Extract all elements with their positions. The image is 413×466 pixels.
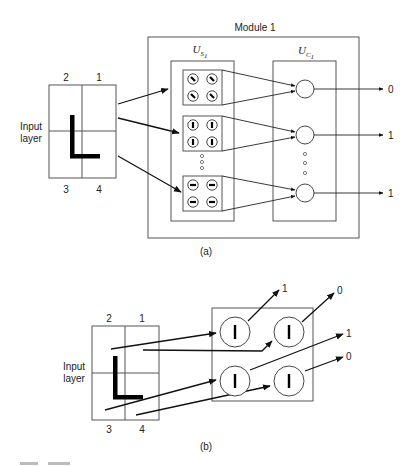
uc-unit-3 — [296, 184, 314, 202]
input-layer-label-line2: layer — [20, 133, 42, 144]
feature-output-top-right: 0 — [337, 285, 343, 296]
horizontal-feature-cell — [188, 180, 198, 190]
us-group-horizontal — [183, 176, 222, 211]
uc-unit-2 — [296, 126, 314, 144]
us-group-vertical — [183, 116, 222, 151]
diagonal-feature-cell — [188, 74, 198, 84]
us-group-diagonal — [183, 70, 222, 105]
neocognitron-figure: Module 1 Input layer 2 1 3 4 — [0, 0, 413, 466]
us-to-uc-connections — [222, 70, 295, 211]
quadrant-label-2: 2 — [63, 72, 69, 83]
uc-layer-label: UC1 — [298, 44, 314, 61]
diagonal-feature-cell — [207, 74, 217, 84]
uc-layer: UC1 — [222, 44, 336, 221]
horizontal-feature-cell — [207, 197, 217, 207]
output-value-2: 1 — [388, 130, 394, 141]
diagonal-feature-cell — [188, 91, 198, 101]
quadrant-label-3: 3 — [63, 184, 69, 195]
caption-a: (a) — [200, 246, 212, 257]
feature-output-bottom-right: 0 — [346, 351, 352, 362]
quadrant-label-1: 1 — [139, 313, 145, 324]
part-a: Module 1 Input layer 2 1 3 4 — [20, 22, 394, 257]
us-layer: US1 — [171, 43, 234, 221]
input-layer-label-line1: Input — [20, 121, 42, 132]
feature-cell-bottom-left — [220, 366, 250, 396]
part-b: Input layer 2 1 3 4 — [63, 283, 352, 452]
module-title: Module 1 — [234, 22, 276, 33]
caption-b: (b) — [200, 441, 212, 452]
diagonal-feature-cell — [207, 91, 217, 101]
feature-cell-top-left — [220, 317, 250, 347]
vertical-feature-cell — [207, 120, 217, 130]
input-layer-b: Input layer 2 1 3 4 — [63, 313, 159, 435]
uc-unit-1 — [296, 80, 314, 98]
input-layer-a: Input layer 2 1 3 4 — [20, 72, 116, 195]
feature-output-top-left: 1 — [282, 283, 288, 294]
outputs-a: 0 1 1 — [314, 84, 394, 199]
quadrant-label-4: 4 — [139, 424, 145, 435]
quadrant-label-1: 1 — [96, 72, 102, 83]
horizontal-feature-cell — [207, 180, 217, 190]
us-ellipsis-dots — [200, 154, 203, 169]
input-layer-label-line2: layer — [63, 373, 85, 384]
quadrant-label-2: 2 — [106, 313, 112, 324]
vertical-feature-cell — [207, 137, 217, 147]
output-value-1: 0 — [388, 84, 394, 95]
feature-cell-bottom-right — [274, 366, 304, 396]
vertical-feature-cell — [188, 137, 198, 147]
horizontal-feature-cell — [188, 197, 198, 207]
uc-ellipsis-dots — [303, 152, 306, 174]
input-to-us-connections — [118, 89, 181, 192]
us-layer-label: US1 — [193, 43, 208, 60]
output-value-3: 1 — [388, 188, 394, 199]
cropped-figure-caption — [20, 462, 70, 465]
vertical-feature-cell — [188, 120, 198, 130]
input-layer-label-line1: Input — [63, 361, 85, 372]
quadrant-label-4: 4 — [96, 184, 102, 195]
feature-cell-top-right — [274, 317, 304, 347]
feature-output-bottom-left: 1 — [346, 328, 352, 339]
quadrant-label-3: 3 — [106, 424, 112, 435]
module-1-box — [148, 37, 359, 238]
